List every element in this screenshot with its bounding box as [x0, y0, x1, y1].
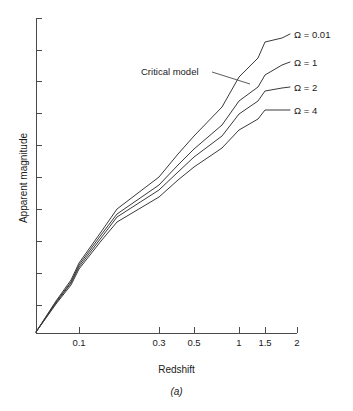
model-curves	[36, 34, 290, 332]
series-label-omega-2: Ω = 2	[294, 82, 317, 93]
curve-omega-4	[36, 110, 290, 332]
annotation-critical-model: Critical model	[141, 66, 199, 77]
curve-omega-1	[36, 62, 290, 332]
x-axis-ticks	[79, 327, 297, 333]
x-tick-label-0.3: 0.3	[145, 337, 173, 348]
x-tick-label-1: 1	[229, 337, 249, 348]
x-tick-label-0.5: 0.5	[180, 337, 208, 348]
series-label-omega-4: Ω = 4	[294, 105, 317, 116]
x-tick-label-1.5: 1.5	[252, 337, 278, 348]
y-axis-title: Apparent magnitude	[18, 98, 30, 258]
curve-omega-2	[36, 87, 290, 332]
x-axis-title: Redshift	[0, 364, 353, 376]
series-label-omega-1: Ω = 1	[294, 57, 317, 68]
x-tick-label-2: 2	[287, 337, 307, 348]
figure-container: 0.1 0.3 0.5 1 1.5 2 Redshift Apparent ma…	[0, 0, 353, 411]
annotation-leader-line	[212, 72, 250, 84]
y-axis-ticks	[36, 18, 42, 305]
curve-omega-0.01	[36, 34, 290, 332]
x-tick-label-0.1: 0.1	[65, 337, 93, 348]
series-label-omega-0.01: Ω = 0.01	[294, 29, 330, 40]
figure-caption: (a)	[0, 386, 353, 397]
